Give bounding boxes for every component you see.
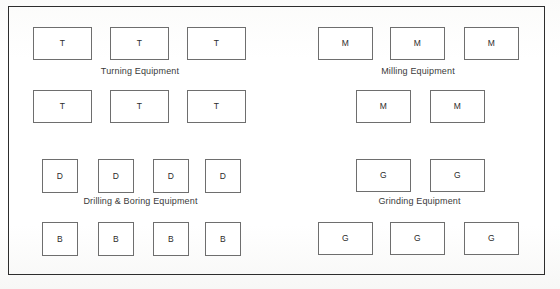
machine-box-drilling-boring[interactable]: B — [153, 222, 189, 256]
machine-code-label: M — [380, 102, 387, 111]
machine-box-turning[interactable]: T — [110, 27, 169, 60]
machine-code-label: G — [414, 234, 421, 243]
machine-code-label: T — [137, 39, 142, 48]
machine-code-label: T — [60, 102, 65, 111]
machine-code-label: D — [168, 172, 174, 181]
machine-code-label: M — [488, 39, 495, 48]
machine-code-label: G — [380, 171, 387, 180]
machine-box-grinding[interactable]: G — [390, 222, 445, 255]
machine-code-label: T — [60, 39, 65, 48]
machine-box-milling[interactable]: M — [464, 27, 519, 60]
machine-box-turning[interactable]: T — [33, 27, 92, 60]
zone-label-milling: Milling Equipment — [363, 66, 473, 76]
machine-code-label: B — [57, 235, 63, 244]
machine-box-grinding[interactable]: G — [318, 222, 373, 255]
machine-code-label: G — [488, 234, 495, 243]
machine-box-milling[interactable]: M — [430, 90, 485, 123]
machine-box-grinding[interactable]: G — [356, 159, 411, 192]
machine-box-grinding[interactable]: G — [430, 159, 485, 192]
machine-code-label: T — [137, 102, 142, 111]
diagram-canvas: TTTTTTTurning EquipmentMMMMMMilling Equi… — [0, 0, 560, 289]
zone-label-grinding: Grinding Equipment — [362, 196, 477, 206]
machine-code-label: D — [113, 172, 119, 181]
machine-code-label: M — [342, 39, 349, 48]
machine-box-drilling-boring[interactable]: B — [98, 222, 134, 256]
machine-box-drilling-boring[interactable]: B — [42, 222, 78, 256]
machine-box-turning[interactable]: T — [187, 90, 246, 123]
machine-code-label: B — [220, 235, 226, 244]
machine-box-turning[interactable]: T — [110, 90, 169, 123]
machine-code-label: B — [168, 235, 174, 244]
machine-box-milling[interactable]: M — [318, 27, 373, 60]
machine-code-label: T — [214, 102, 219, 111]
machine-box-drilling-boring[interactable]: D — [205, 159, 241, 193]
machine-box-drilling-boring[interactable]: D — [98, 159, 134, 193]
machine-box-turning[interactable]: T — [33, 90, 92, 123]
machine-box-milling[interactable]: M — [356, 90, 411, 123]
zone-label-turning: Turning Equipment — [85, 66, 195, 76]
machine-code-label: D — [220, 172, 226, 181]
zone-label-drilling-boring: Drilling & Boring Equipment — [58, 196, 223, 206]
machine-box-drilling-boring[interactable]: D — [153, 159, 189, 193]
machine-code-label: M — [414, 39, 421, 48]
machine-code-label: T — [214, 39, 219, 48]
machine-box-grinding[interactable]: G — [464, 222, 519, 255]
machine-code-label: G — [342, 234, 349, 243]
machine-box-drilling-boring[interactable]: B — [205, 222, 241, 256]
machine-code-label: G — [454, 171, 461, 180]
machine-box-turning[interactable]: T — [187, 27, 246, 60]
machine-code-label: D — [57, 172, 63, 181]
machine-box-drilling-boring[interactable]: D — [42, 159, 78, 193]
machine-code-label: B — [113, 235, 119, 244]
machine-code-label: M — [454, 102, 461, 111]
machine-box-milling[interactable]: M — [390, 27, 445, 60]
